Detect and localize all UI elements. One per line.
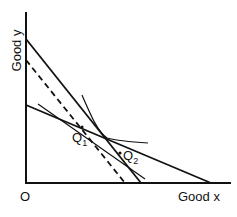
q2-label: Q2 (123, 149, 138, 166)
diagram-canvas (0, 0, 237, 217)
q1-label: Q1 (72, 131, 87, 148)
budget-line-shifted (26, 60, 125, 183)
y-axis-label: Good y (10, 30, 23, 72)
indifference-curve (82, 95, 148, 143)
budget-line-flat (26, 105, 211, 183)
origin-label: O (20, 190, 30, 203)
point-q1 (80, 125, 83, 128)
point-q2 (118, 151, 121, 154)
x-axis-label: Good x (178, 190, 220, 203)
